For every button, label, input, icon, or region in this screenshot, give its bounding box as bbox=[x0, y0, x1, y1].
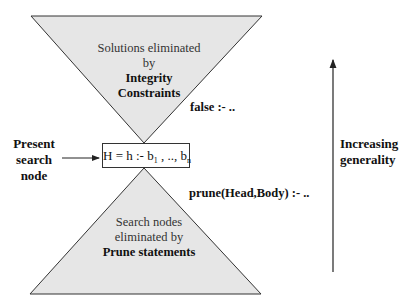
top-triangle-line1: Solutions eliminated bbox=[84, 41, 214, 56]
present-label-line2: search bbox=[4, 152, 64, 168]
false-rule-label: false :- .. bbox=[190, 100, 235, 115]
prune-rule-label: prune(Head,Body) :- .. bbox=[189, 186, 310, 201]
present-search-node-label: Present search node bbox=[4, 136, 64, 184]
bottom-triangle-label: Search nodes eliminated by Prune stateme… bbox=[84, 215, 214, 260]
formula-prefix: H = h :- b bbox=[103, 148, 154, 163]
bottom-triangle-line3: Prune statements bbox=[84, 245, 214, 260]
generality-line1: Increasing bbox=[340, 136, 398, 152]
formula-mid: , .., b bbox=[158, 148, 187, 163]
present-label-line1: Present bbox=[4, 136, 64, 152]
bottom-triangle-line1: Search nodes bbox=[84, 215, 214, 230]
top-triangle-label: Solutions eliminated by Integrity Constr… bbox=[84, 41, 214, 101]
top-triangle-line3: Integrity bbox=[84, 71, 214, 86]
top-triangle-line2: by bbox=[84, 56, 214, 71]
formula-sub-n: n bbox=[187, 156, 191, 165]
present-label-line3: node bbox=[4, 168, 64, 184]
top-triangle-line4: Constraints bbox=[84, 86, 214, 101]
search-node-box: H = h :- b1 , .., bn bbox=[102, 143, 190, 168]
bottom-triangle-line2: eliminated by bbox=[84, 230, 214, 245]
increasing-generality-label: Increasing generality bbox=[340, 136, 398, 168]
generality-line2: generality bbox=[340, 152, 398, 168]
